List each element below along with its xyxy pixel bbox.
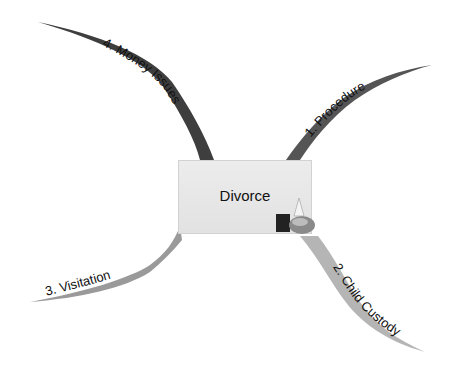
- branch-child-custody[interactable]: 2. Child Custody: [300, 236, 425, 352]
- central-topic-box[interactable]: Divorce: [178, 160, 312, 234]
- branch-procedure[interactable]: 1. Procedure: [286, 65, 432, 160]
- branch-label-child-custody: 2. Child Custody: [330, 261, 403, 340]
- central-topic-label: Divorce: [220, 187, 271, 204]
- branch-visitation[interactable]: 3. Visitation: [30, 226, 182, 302]
- branch-label-procedure: 1. Procedure: [301, 78, 367, 140]
- branch-label-money-issues: 4. Money Issues: [101, 35, 185, 107]
- branch-money-issues[interactable]: 4. Money Issues: [38, 22, 214, 160]
- branch-shape: [38, 22, 214, 160]
